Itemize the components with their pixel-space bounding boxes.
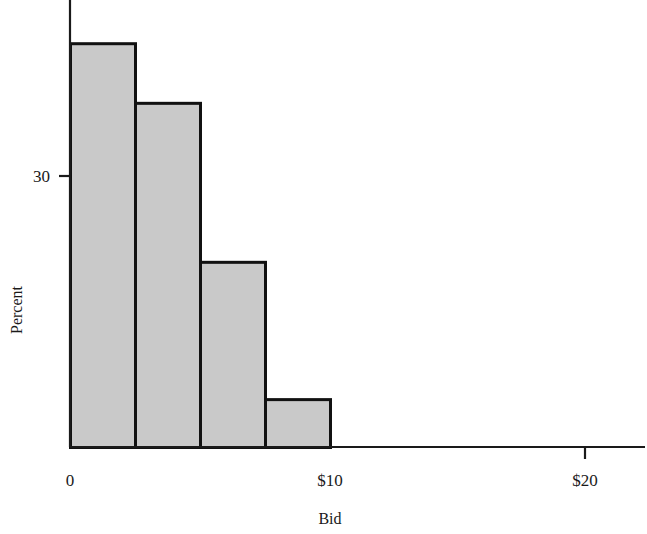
histogram-bar — [136, 103, 201, 447]
y-axis-title: Percent — [8, 285, 25, 334]
x-tick-label-10: $10 — [317, 471, 343, 490]
x-tick-label-20: $20 — [572, 471, 598, 490]
histogram-bar — [266, 400, 331, 448]
y-tick-label-30: 30 — [33, 167, 50, 186]
x-tick-label-0: 0 — [66, 471, 75, 490]
chart-canvas: 30 0 $10 $20 Bid Percent — [0, 0, 647, 534]
histogram-bar — [201, 262, 266, 447]
x-axis-title: Bid — [318, 510, 341, 527]
histogram-bar — [71, 44, 136, 448]
bars-group — [71, 44, 331, 448]
histogram-figure: 30 0 $10 $20 Bid Percent — [0, 0, 647, 534]
